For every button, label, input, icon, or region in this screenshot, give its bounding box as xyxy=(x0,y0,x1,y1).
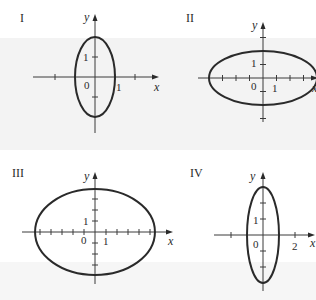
y-axis-label: y xyxy=(249,169,256,183)
x-tick-label: 1 xyxy=(103,235,109,247)
origin-label: 0 xyxy=(251,80,257,92)
panel-label: I xyxy=(20,11,24,25)
x-axis-label: x xyxy=(153,80,160,94)
x-tick-label: 2 xyxy=(292,240,298,252)
y-axis-label: y xyxy=(83,10,90,24)
y-axis-arrow-icon xyxy=(93,172,98,179)
panel-label: II xyxy=(186,11,194,25)
background-band-top xyxy=(0,38,316,150)
y-tick-label: 1 xyxy=(83,51,89,63)
y-tick-label: 1 xyxy=(83,215,89,227)
ellipse-figure: Ixy011IIxy011IIIxy011IVxy021 xyxy=(0,0,316,300)
x-axis-label: x xyxy=(167,234,174,248)
x-tick-label: 1 xyxy=(116,81,122,93)
y-axis-arrow-icon xyxy=(261,172,266,179)
x-axis-label: x xyxy=(311,81,316,95)
y-tick-label: 1 xyxy=(253,214,259,226)
y-axis-label: y xyxy=(83,169,90,183)
y-axis-arrow-icon xyxy=(93,14,98,21)
origin-label: 0 xyxy=(253,238,259,250)
y-axis-label: y xyxy=(251,18,258,32)
panel-label: IV xyxy=(190,166,203,180)
origin-label: 0 xyxy=(84,79,90,91)
x-axis-label: x xyxy=(309,236,316,250)
x-tick-label: 1 xyxy=(272,82,278,94)
y-axis-arrow-icon xyxy=(261,22,266,29)
y-tick-label: 1 xyxy=(251,57,257,69)
origin-label: 0 xyxy=(81,234,87,246)
panel-label: III xyxy=(12,166,24,180)
